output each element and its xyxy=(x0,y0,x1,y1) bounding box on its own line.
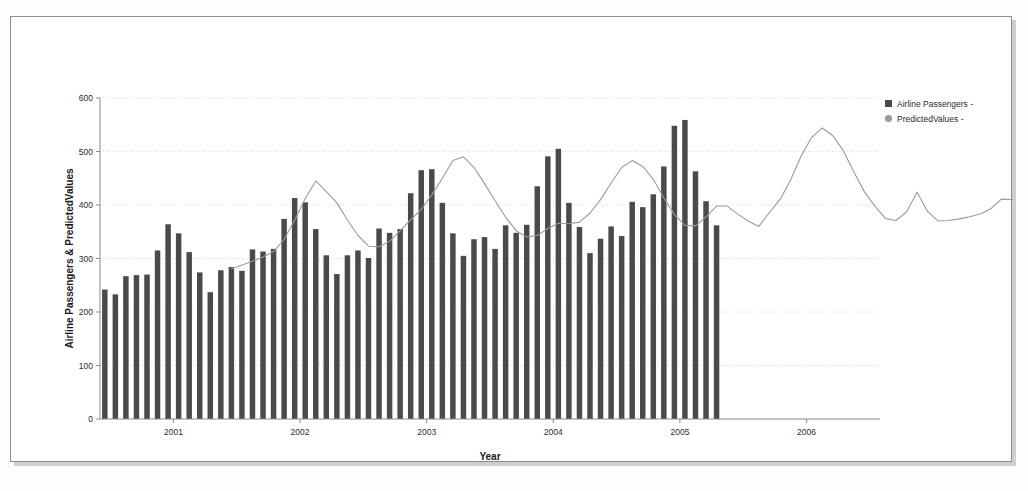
x-tick-label: 2006 xyxy=(797,427,816,437)
bar xyxy=(587,253,592,419)
bar xyxy=(155,250,160,419)
bar xyxy=(397,229,402,419)
legend-square-icon xyxy=(885,100,892,107)
x-axis-title: Year xyxy=(479,451,500,462)
bar xyxy=(355,250,360,419)
bar xyxy=(461,256,466,419)
bar xyxy=(450,233,455,419)
bar xyxy=(693,171,698,419)
chart-page: 0100200300400500600 20012002200320042005… xyxy=(0,0,1028,491)
y-tick-label: 0 xyxy=(88,414,93,424)
bar xyxy=(629,202,634,419)
bar xyxy=(197,272,202,419)
bar xyxy=(165,224,170,419)
bar xyxy=(376,229,381,419)
bar xyxy=(229,267,234,419)
bar xyxy=(271,249,276,419)
bar xyxy=(482,237,487,419)
bar xyxy=(524,225,529,419)
legend-label: Airline Passengers - xyxy=(897,99,973,109)
bar xyxy=(566,203,571,419)
bar xyxy=(513,233,518,419)
bar xyxy=(672,126,677,419)
bar xyxy=(134,275,139,419)
bar xyxy=(492,249,497,419)
bar xyxy=(545,156,550,419)
bar xyxy=(176,233,181,419)
gridlines-group xyxy=(100,98,880,366)
bar xyxy=(619,236,624,419)
bar xyxy=(598,239,603,419)
legend: Airline Passengers -PredictedValues - xyxy=(885,99,973,124)
bar xyxy=(260,252,265,419)
bar xyxy=(640,207,645,419)
bar xyxy=(471,239,476,419)
bar xyxy=(503,225,508,419)
bar xyxy=(218,270,223,419)
bar xyxy=(186,252,191,419)
bar xyxy=(144,275,149,419)
chart-panel: 0100200300400500600 20012002200320042005… xyxy=(10,16,1012,462)
bar xyxy=(682,120,687,419)
y-tick-labels-group: 0100200300400500600 xyxy=(79,93,100,424)
bar xyxy=(123,276,128,419)
bar xyxy=(535,186,540,419)
x-tick-label: 2003 xyxy=(417,427,436,437)
bar xyxy=(250,249,255,419)
chart-svg: 0100200300400500600 20012002200320042005… xyxy=(11,17,1013,463)
y-axis-title: Airline Passengers & PredictedValues xyxy=(64,168,75,349)
bar xyxy=(440,203,445,419)
x-tick-label: 2004 xyxy=(544,427,563,437)
bar xyxy=(608,226,613,419)
x-tick-labels-group: 200120022003200420052006 xyxy=(164,419,816,437)
bar xyxy=(387,233,392,419)
y-tick-label: 100 xyxy=(79,361,93,371)
plot-area: 0100200300400500600 20012002200320042005… xyxy=(11,17,1013,463)
bar xyxy=(292,198,297,419)
x-tick-label: 2001 xyxy=(164,427,183,437)
x-tick-label: 2005 xyxy=(670,427,689,437)
bar xyxy=(366,258,371,419)
bar xyxy=(302,202,307,419)
y-tick-label: 400 xyxy=(79,200,93,210)
bar xyxy=(239,271,244,419)
bar xyxy=(208,292,213,419)
bar xyxy=(345,255,350,419)
bar xyxy=(651,194,656,419)
y-tick-label: 300 xyxy=(79,254,93,264)
y-tick-label: 500 xyxy=(79,147,93,157)
bar xyxy=(661,166,666,419)
bar xyxy=(113,294,118,419)
legend-circle-icon xyxy=(885,115,892,122)
bar xyxy=(102,290,107,419)
bar xyxy=(714,225,719,419)
bar xyxy=(324,255,329,419)
bar xyxy=(313,229,318,419)
y-tick-label: 600 xyxy=(79,93,93,103)
bar xyxy=(577,227,582,419)
x-tick-label: 2002 xyxy=(291,427,310,437)
bar xyxy=(408,193,413,419)
bar xyxy=(429,169,434,419)
bar xyxy=(281,219,286,419)
y-tick-label: 200 xyxy=(79,307,93,317)
bar xyxy=(334,274,339,419)
bar xyxy=(703,201,708,419)
legend-label: PredictedValues - xyxy=(897,114,964,124)
bar xyxy=(556,149,561,419)
